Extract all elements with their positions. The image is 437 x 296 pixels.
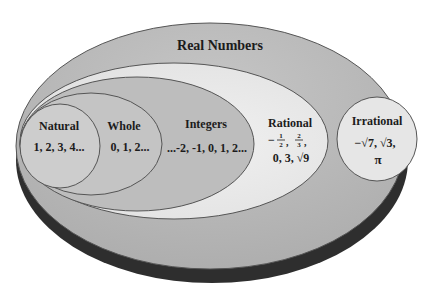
rational-frac1-num: 1	[279, 132, 283, 140]
whole-examples: 0, 1, 2...	[111, 140, 150, 154]
natural-label: Natural	[39, 119, 80, 133]
number-sets-venn-diagram: Real Numbers Natural 1, 2, 3, 4... Whole…	[0, 0, 437, 296]
rational-label: Rational	[268, 116, 313, 130]
irrational-label: Irrational	[352, 114, 403, 128]
rational-minus-sign: −	[268, 133, 275, 147]
rational-examples: 0, 3, √9	[273, 151, 310, 165]
rational-frac2-num: 2	[297, 132, 301, 140]
natural-examples: 1, 2, 3, 4...	[34, 140, 85, 154]
whole-label: Whole	[107, 119, 141, 133]
irrational-examples-line2: π	[374, 152, 381, 167]
rational-frac2-den: 3	[297, 141, 301, 149]
integers-examples: ...-2, -1, 0, 1, 2...	[167, 141, 247, 155]
real-numbers-label: Real Numbers	[177, 38, 263, 53]
rational-frac1-den: 2	[279, 141, 283, 149]
integers-label: Integers	[185, 117, 227, 131]
irrational-examples-line1: −√7, √3,	[354, 136, 395, 150]
